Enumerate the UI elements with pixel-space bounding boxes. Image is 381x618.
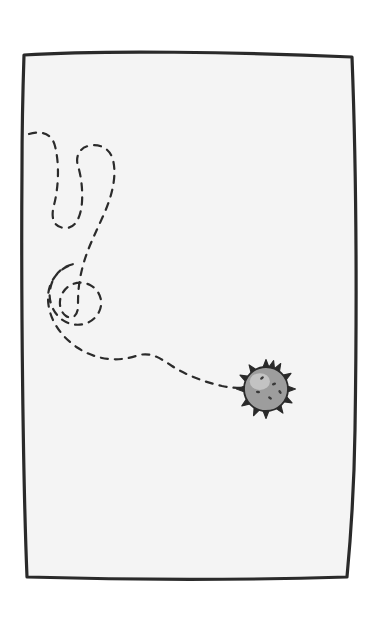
germ-body [244, 367, 288, 411]
drawing-surface [0, 0, 381, 618]
illustration-canvas [0, 0, 381, 618]
germ-highlight [250, 373, 270, 390]
paper-background [22, 52, 356, 579]
